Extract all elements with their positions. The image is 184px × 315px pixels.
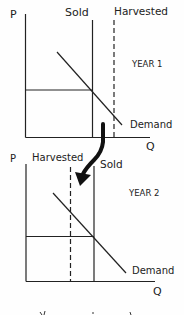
year-label: YEAR 1	[131, 59, 162, 69]
q-axis-label: Q	[146, 140, 155, 153]
p-axis-label: P	[10, 153, 16, 164]
sold-label: Sold	[100, 158, 123, 170]
year-2-panel: P Harvested Sold YEAR 2 Demand Q	[10, 152, 174, 298]
harvested-label: Harvested	[114, 5, 168, 17]
footer-partial-text	[40, 311, 131, 315]
demand-curve	[57, 52, 122, 125]
demand-label: Demand	[132, 265, 174, 276]
demand-curve	[53, 193, 126, 273]
demand-label: Demand	[130, 119, 172, 130]
sold-label: Sold	[65, 6, 89, 19]
p-axis-label: P	[10, 8, 17, 21]
year-1-panel: P Sold Harvested YEAR 1 Demand Q	[10, 5, 172, 153]
supply-demand-diagram: P Sold Harvested YEAR 1 Demand Q	[0, 0, 184, 315]
year-label: YEAR 2	[128, 188, 159, 198]
harvested-label: Harvested	[32, 152, 83, 163]
q-axis-label: Q	[153, 285, 162, 298]
